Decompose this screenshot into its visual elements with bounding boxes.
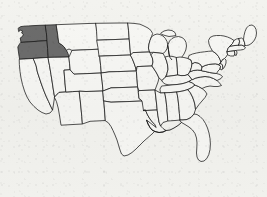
state-WY[interactable]: Wyoming [69,49,101,74]
state-WA[interactable]: Washington [19,25,48,42]
state-AZ[interactable]: Arizona [55,91,83,125]
state-NE[interactable]: Nebraska [99,55,136,73]
state-NM[interactable]: New Mexico [79,91,105,124]
us-choropleth-map: Washington Oregon Idaho California Nevad… [0,0,267,197]
state-OR[interactable]: Oregon [18,41,48,60]
state-SD[interactable]: South Dakota [97,39,131,56]
state-ME[interactable]: Maine [244,25,257,46]
us-states-svg: Washington Oregon Idaho California Nevad… [0,0,267,197]
state-ND[interactable]: North Dakota [96,23,129,40]
state-WI[interactable]: Wisconsin [148,34,167,54]
state-RI[interactable]: Rhode Island [235,50,238,55]
state-OK[interactable]: Oklahoma [103,87,142,102]
state-FL[interactable]: Florida [180,114,210,162]
